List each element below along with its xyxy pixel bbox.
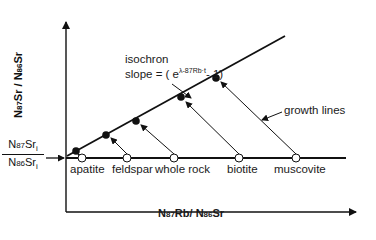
- initial-ratio-numerator: N87Sri: [2, 138, 44, 155]
- mineral-label-muscovite: muscovite: [274, 163, 326, 175]
- y-axis-label: N87Sr / N86Sr: [12, 52, 24, 118]
- isochron-label: isochron: [125, 53, 168, 65]
- growth-lines-pointer: [262, 112, 282, 120]
- initial-ratio-denominator: N86Sri: [2, 155, 44, 171]
- mineral-label-whole-rock: whole rock: [155, 163, 210, 175]
- present-points: [72, 74, 220, 155]
- isochron-slope: slope = ( eλ-87Rb·t- 1): [125, 67, 223, 80]
- mineral-label-feldspar: feldspar: [112, 163, 153, 175]
- growth-lines-label: growth lines: [284, 104, 345, 116]
- isochron-line: [67, 36, 285, 156]
- x-axis-label: N87Rb/ N86Sr: [158, 207, 224, 219]
- axes: [66, 22, 356, 212]
- mineral-label-apatite: apatite: [70, 163, 105, 175]
- mineral-label-biotite: biotite: [227, 163, 258, 175]
- initial-ratio-label: N87Sri N86Sri: [2, 138, 44, 171]
